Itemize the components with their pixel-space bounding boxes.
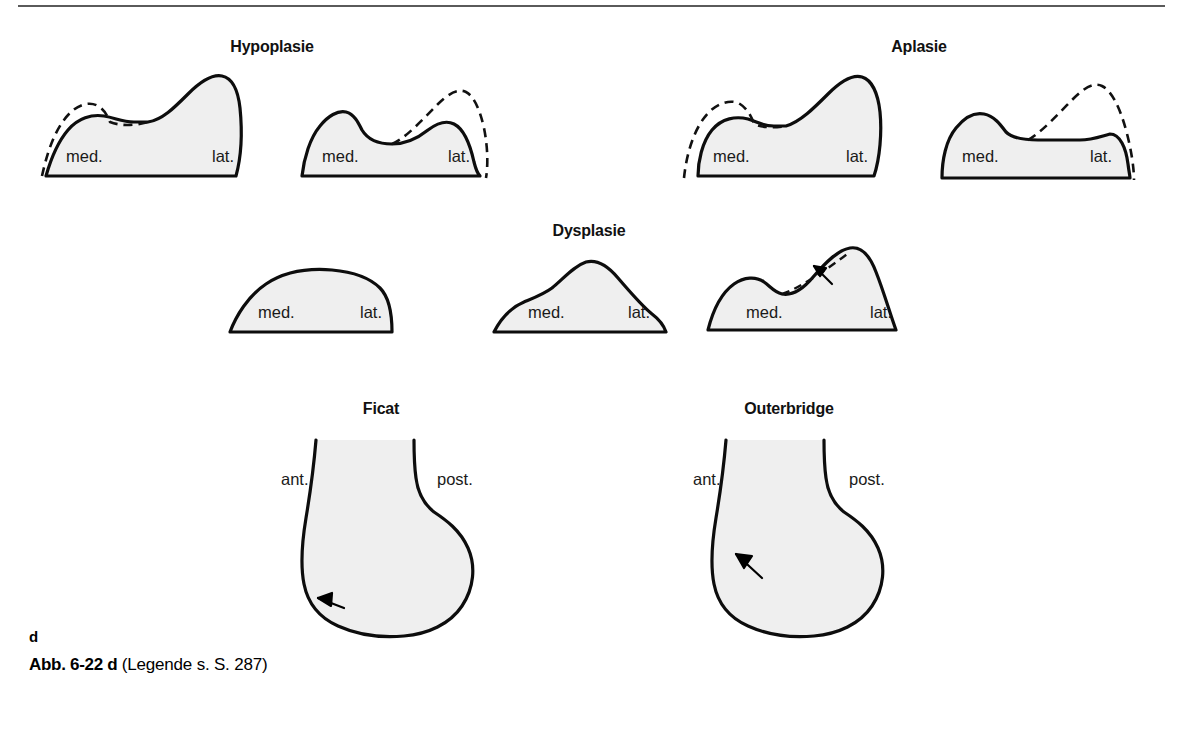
condyle-diagram-ficat [300,438,520,648]
label-medial-dysplasie-2: med. [528,303,565,322]
label-medial-hypoplasie-right: med. [322,147,359,166]
label-medial-dysplasie-1: med. [258,303,295,322]
label-lateral-hypoplasie-left: lat. [212,147,234,166]
patella-diagram-dysplasie-3 [700,240,950,336]
label-lateral-dysplasie-1: lat. [360,303,382,322]
label-anterior-outerbridge: ant. [693,470,721,489]
label-medial-dysplasie-3: med. [746,303,783,322]
patella-outline-dysplasie-1 [230,270,392,332]
patella-outline-dysplasie-3 [708,248,896,330]
patella-diagram-aplasie-left [676,66,911,181]
group-title-ficat: Ficat [363,400,399,418]
label-medial-aplasie-left: med. [713,147,750,166]
label-lateral-dysplasie-2: lat. [628,303,650,322]
group-title-dysplasie: Dysplasie [553,222,626,240]
figure-caption-note-text: (Legende s. S. 287) [122,655,268,674]
patella-outline-aplasie-right [942,114,1130,178]
patella-diagram-dysplasie-1 [222,258,422,338]
label-lateral-aplasie-left: lat. [846,147,868,166]
condyle-diagram-outerbridge [710,438,930,648]
label-lateral-aplasie-right: lat. [1090,147,1112,166]
top-divider-rule [18,5,1165,7]
figure-caption-note: (Legende s. S. 287) [117,655,267,674]
label-lateral-hypoplasie-right: lat. [448,147,470,166]
panel-letter: d [29,628,38,645]
label-medial-aplasie-right: med. [962,147,999,166]
group-title-outerbridge: Outerbridge [744,400,833,418]
figure-caption: Abb. 6-22 d (Legende s. S. 287) [29,655,267,675]
label-posterior-ficat: post. [437,470,473,489]
patella-outline-hypoplasie-right [302,112,480,176]
label-medial-hypoplasie-left: med. [66,147,103,166]
label-posterior-outerbridge: post. [849,470,885,489]
label-lateral-dysplasie-3: lat. [870,303,892,322]
label-anterior-ficat: ant. [281,470,309,489]
group-title-hypoplasie: Hypoplasie [230,38,313,56]
figure-page: Hypoplasie Aplasie med. lat. med. lat. m… [0,0,1179,732]
group-title-aplasie: Aplasie [891,38,947,56]
figure-caption-reference: Abb. 6-22 d [29,655,117,674]
patella-diagram-dysplasie-2 [490,250,690,338]
